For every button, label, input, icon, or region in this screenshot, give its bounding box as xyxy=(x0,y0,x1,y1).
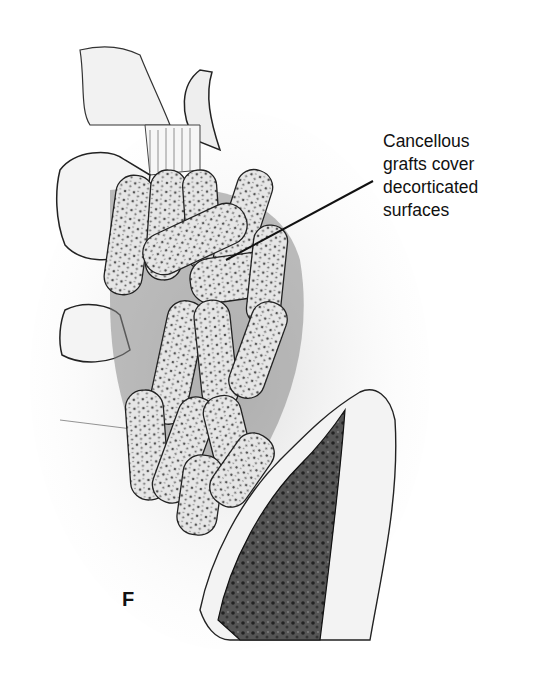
panel-label: F xyxy=(122,588,134,611)
annotation-line-2: grafts cover xyxy=(383,153,478,176)
annotation-label: Cancellous grafts cover decorticated sur… xyxy=(383,130,478,222)
annotation-line-3: decorticated xyxy=(383,176,478,199)
annotation-line-1: Cancellous xyxy=(383,130,478,153)
annotation-line-4: surfaces xyxy=(383,199,478,222)
spine-bone-graft-illustration xyxy=(0,0,544,673)
